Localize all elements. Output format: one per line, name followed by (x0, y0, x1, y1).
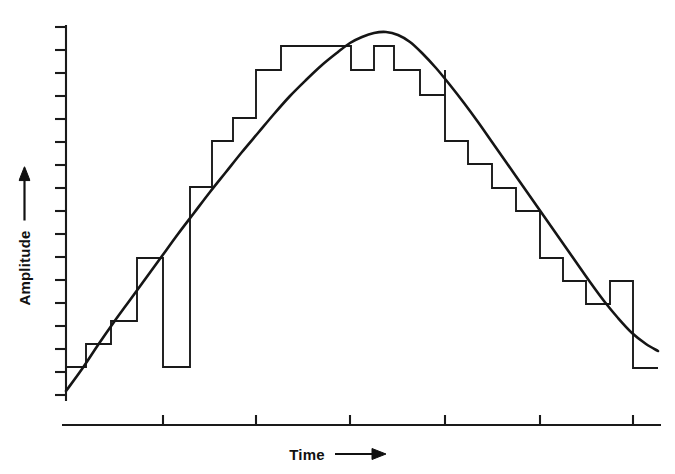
quantized-staircase-series (66, 46, 658, 368)
x-axis-ticks (163, 415, 633, 425)
y-axis-ticks (55, 27, 66, 395)
x-axis-label: Time (0, 441, 675, 467)
arrow-right-icon (334, 448, 386, 460)
arrow-up-icon (18, 166, 30, 222)
y-axis-group (55, 25, 66, 401)
x-axis-group (62, 415, 661, 425)
y-axis-label: Amplitude (2, 146, 46, 326)
x-axis-label-text: Time (289, 446, 325, 463)
quantization-figure: Amplitude Time (0, 0, 675, 474)
y-axis-label-text: Amplitude (16, 230, 33, 305)
plot-canvas (0, 0, 675, 474)
analog-signal-curve (66, 32, 658, 391)
